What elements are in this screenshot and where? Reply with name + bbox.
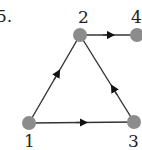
node-label-4: 4 <box>131 9 142 26</box>
node-label-1: 1 <box>24 133 35 150</box>
node-3 <box>127 115 141 129</box>
node-1 <box>22 116 36 130</box>
edge-1-3 <box>29 122 134 123</box>
node-label-3: 3 <box>128 133 139 150</box>
edge-1-2 <box>29 35 80 123</box>
node-label-2: 2 <box>78 9 89 26</box>
graph-canvas <box>0 0 142 150</box>
edge-3-2 <box>80 35 134 122</box>
node-2 <box>73 28 87 42</box>
graph-diagram: 5. 1 2 3 4 <box>0 0 142 150</box>
node-4 <box>130 28 142 42</box>
